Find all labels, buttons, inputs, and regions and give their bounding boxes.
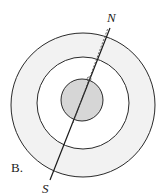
- option-label: B.: [11, 160, 23, 175]
- south-label: S: [42, 181, 49, 196]
- north-label: N: [106, 10, 117, 25]
- earth-magnetic-field-diagram: N S B.: [0, 0, 165, 196]
